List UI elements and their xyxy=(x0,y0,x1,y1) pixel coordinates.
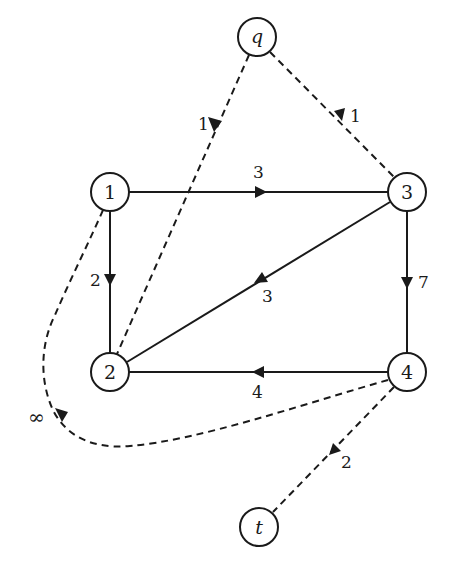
node-4-label: 4 xyxy=(401,361,413,383)
edge-4-1-weight: ∞ xyxy=(28,405,45,429)
node-4: 4 xyxy=(388,353,426,391)
arrow-1-2-icon xyxy=(104,274,116,286)
edge-1-2-weight: 2 xyxy=(90,270,101,290)
node-t: t xyxy=(240,508,278,546)
edge-q-2 xyxy=(117,55,249,354)
arrow-4-t-icon xyxy=(329,443,341,455)
arrow-q-2-icon xyxy=(208,117,222,132)
node-t-label: t xyxy=(255,516,263,538)
node-q-label: q xyxy=(251,25,263,47)
edge-4-2-weight: 4 xyxy=(252,382,263,402)
edge-3-4-weight: 7 xyxy=(418,272,429,292)
node-2: 2 xyxy=(91,353,129,391)
graph-canvas: 1 1 3 2 3 7 4 ∞ 2 q 1 3 2 4 xyxy=(0,0,450,576)
edge-q-3-weight: 1 xyxy=(350,106,361,126)
node-1-label: 1 xyxy=(104,181,116,203)
arrow-q-3-icon xyxy=(334,108,345,121)
edge-4-1 xyxy=(43,210,388,447)
edge-4-t-weight: 2 xyxy=(341,452,352,472)
node-3: 3 xyxy=(388,173,426,211)
arrow-1-3-icon xyxy=(255,186,267,198)
node-1: 1 xyxy=(91,173,129,211)
arrow-3-4-icon xyxy=(401,277,413,289)
edge-1-3-weight: 3 xyxy=(253,162,264,182)
arrow-4-1-icon xyxy=(55,408,68,422)
node-q: q xyxy=(238,18,276,56)
node-2-label: 2 xyxy=(104,361,116,383)
edge-3-2-weight: 3 xyxy=(262,286,273,306)
edge-q-3 xyxy=(270,52,394,177)
arrow-4-2-icon xyxy=(252,366,264,378)
edge-q-2-weight: 1 xyxy=(198,114,209,134)
node-3-label: 3 xyxy=(401,181,413,203)
